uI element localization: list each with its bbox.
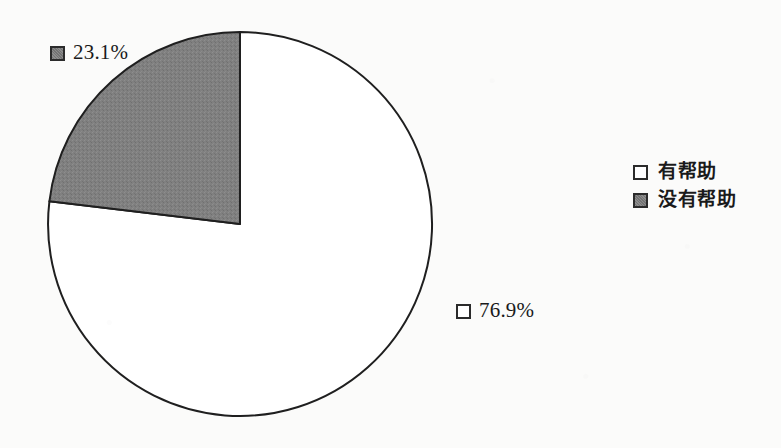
legend-item-label: 没有帮助 xyxy=(658,190,736,210)
legend-item-label: 有帮助 xyxy=(658,162,717,182)
pie-chart-graphic xyxy=(0,0,781,448)
legend-swatch-not-helpful-icon xyxy=(633,193,648,208)
legend-swatch-helpful-icon xyxy=(633,165,648,180)
swatch-helpful-icon xyxy=(456,304,471,319)
swatch-not-helpful-icon xyxy=(50,46,65,61)
pie-data-label-value: 76.9% xyxy=(479,300,534,323)
legend-item-helpful: 有帮助 xyxy=(633,162,736,182)
pie-chart-figure: 23.1% 76.9% 有帮助 没有帮助 xyxy=(0,0,781,448)
pie-data-label-value: 23.1% xyxy=(73,42,128,65)
chart-legend: 有帮助 没有帮助 xyxy=(633,162,736,210)
pie-data-label-helpful: 76.9% xyxy=(456,300,534,323)
legend-item-not-helpful: 没有帮助 xyxy=(633,190,736,210)
pie-data-label-not-helpful: 23.1% xyxy=(50,42,128,65)
